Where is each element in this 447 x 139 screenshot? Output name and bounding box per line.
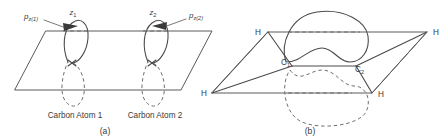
p-orbital-right-lower-lobe <box>142 62 164 106</box>
panel-b-group <box>212 11 427 126</box>
orbital-label-pz2: pz(2) <box>188 11 203 21</box>
figure-drawing: z1 z2 pz(1) pz(2) Carbon Atom 1 Carbon A… <box>0 0 447 139</box>
carbon-label-c1: C1 <box>281 58 290 68</box>
panel-b-caption: (b) <box>305 126 316 136</box>
leader-line-left <box>44 20 66 28</box>
axis-label-z1: z1 <box>69 8 77 18</box>
p-orbital-left <box>62 20 88 106</box>
arrowhead-right <box>152 22 167 30</box>
perspective-edge-right <box>372 32 427 93</box>
p-orbital-right <box>142 20 168 106</box>
hydrogen-label-bottom-right: H <box>378 90 384 99</box>
p-orbital-left-lower-lobe <box>62 62 84 106</box>
carbon-atom-2-label: Carbon Atom 2 <box>128 111 183 120</box>
hydrogen-label-bottom-left: H <box>201 89 207 98</box>
panel-a-caption: (a) <box>100 126 111 136</box>
plane-parallelogram-a <box>15 31 212 90</box>
panel-a-group <box>15 19 212 106</box>
hydrogen-label-top-left: H <box>255 28 261 37</box>
leader-line-right <box>164 19 186 27</box>
orbital-label-pz1: pz(1) <box>23 12 38 22</box>
axis-label-z2: z2 <box>149 8 157 18</box>
pi-cloud-lower-lobe <box>285 70 369 126</box>
panel-a-plane <box>15 31 212 90</box>
carbon-label-c2: C2 <box>355 65 364 75</box>
leader-left-orbital <box>44 20 78 31</box>
plane-parallelogram-b <box>212 32 427 93</box>
pi-cloud-upper-lobe <box>284 11 368 62</box>
carbon-atom-1-label: Carbon Atom 1 <box>48 111 103 120</box>
figure-container: z1 z2 pz(1) pz(2) Carbon Atom 1 Carbon A… <box>0 0 447 139</box>
bond-c1-h-top-left <box>268 32 292 66</box>
hydrogen-label-top-right: H <box>433 28 439 37</box>
